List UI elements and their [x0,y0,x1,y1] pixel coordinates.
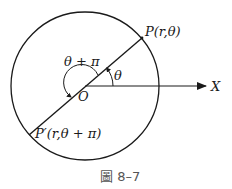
figure-caption: 圖 8–7 [100,169,140,184]
label-origin: O [78,89,89,104]
label-axis-x: X [210,79,221,94]
label-point-p-prime: P′(r,θ + π) [34,126,101,141]
polar-diagram: P(r,θ) θ + π θ O X P′(r,θ + π) 圖 8–7 [0,0,232,189]
label-theta: θ [114,68,122,83]
point-p-dot [141,37,144,40]
label-theta-pi: θ + π [64,54,100,69]
theta-arc-icon [107,68,114,86]
label-point-p: P(r,θ) [144,24,181,39]
